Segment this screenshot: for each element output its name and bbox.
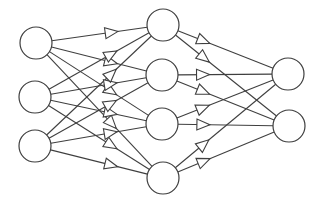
- edge-I1-H2: [52, 47, 147, 71]
- arrowhead-icon: [104, 158, 118, 169]
- arrowhead-icon: [196, 34, 210, 44]
- arrowhead-icon: [196, 50, 210, 62]
- edge-I1-H1: [52, 27, 147, 41]
- edge-I2-H4: [49, 106, 150, 170]
- edge-I3-H4: [51, 150, 148, 174]
- arrowhead-icon: [197, 69, 210, 80]
- arrowhead-icon: [197, 119, 210, 130]
- neural-network-diagram: [0, 0, 322, 207]
- hidden-node-H3: [146, 108, 178, 140]
- edge-H4-O2: [178, 132, 274, 172]
- input-node-I1: [20, 27, 52, 59]
- edge-H2-O1: [178, 74, 272, 75]
- hidden-node-H1: [147, 9, 179, 41]
- arrowhead-icon: [103, 129, 117, 140]
- edge-I3-H1: [47, 36, 152, 135]
- arrowhead-icon: [195, 140, 209, 153]
- edge-I3-H2: [49, 83, 148, 138]
- edge-H1-O1: [178, 31, 273, 68]
- arrowhead-icon: [196, 158, 210, 168]
- arrowheads-group: [102, 28, 210, 169]
- nodes-group: [19, 9, 305, 194]
- edge-H1-O2: [175, 35, 276, 116]
- input-node-I2: [19, 81, 51, 113]
- hidden-node-H4: [147, 162, 179, 194]
- output-node-O2: [273, 110, 305, 142]
- edge-H2-O2: [177, 81, 274, 120]
- arrowhead-icon: [195, 84, 209, 94]
- input-node-I3: [19, 130, 51, 162]
- edges-group: [47, 27, 277, 174]
- arrowhead-icon: [105, 28, 119, 39]
- hidden-node-H2: [146, 59, 178, 91]
- output-node-O1: [272, 58, 304, 90]
- arrowhead-icon: [195, 105, 209, 115]
